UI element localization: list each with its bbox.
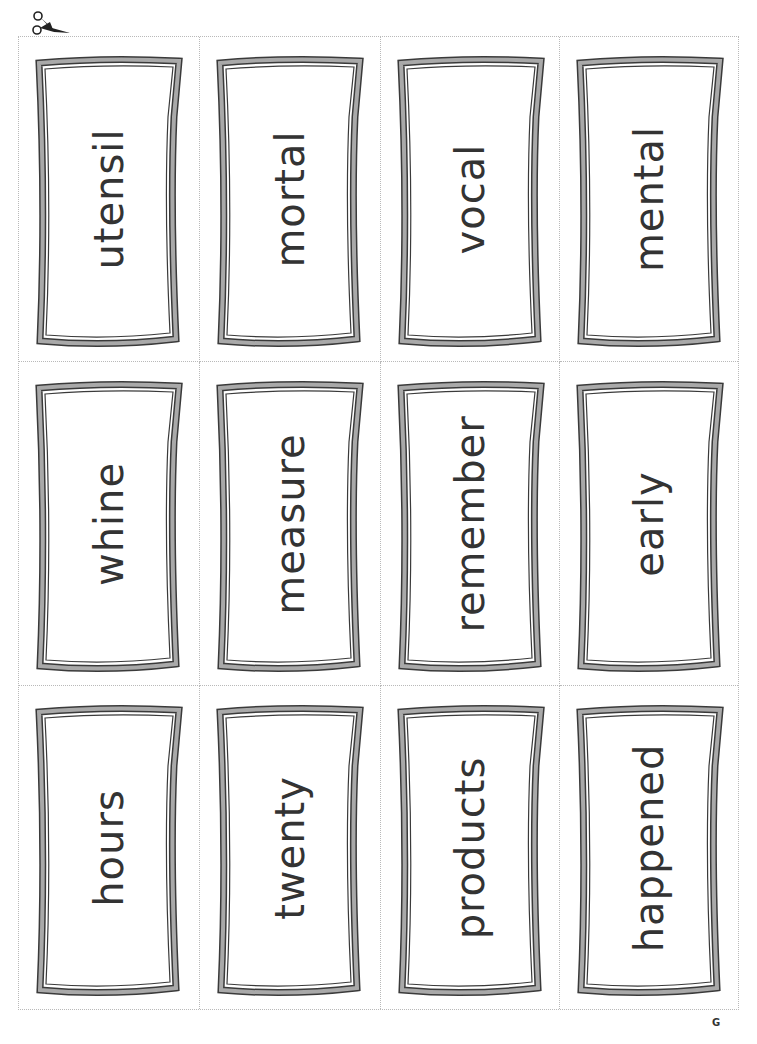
- card-word: twenty: [267, 776, 313, 920]
- word-card: mental: [560, 37, 738, 362]
- word-card: remember: [381, 362, 560, 686]
- word-card: happened: [560, 686, 738, 1009]
- page-letter: G: [712, 1017, 720, 1028]
- scissors-icon: [30, 10, 72, 38]
- word-card: measure: [200, 362, 381, 686]
- card-word: whine: [86, 461, 132, 585]
- card-word: utensil: [86, 128, 132, 269]
- card-word: mental: [626, 126, 672, 272]
- card-word: measure: [267, 433, 313, 614]
- card-word: hours: [86, 789, 132, 906]
- card-word: products: [447, 756, 493, 939]
- word-card: twenty: [200, 686, 381, 1009]
- word-card: mortal: [200, 37, 381, 362]
- word-card: whine: [19, 362, 200, 686]
- word-card: utensil: [19, 37, 200, 362]
- word-card: hours: [19, 686, 200, 1009]
- card-word: early: [626, 471, 672, 576]
- word-card: products: [381, 686, 560, 1009]
- card-word: vocal: [447, 144, 493, 255]
- card-word: happened: [626, 743, 672, 952]
- card-word: mortal: [267, 130, 313, 267]
- card-sheet: utensil mortal vocal: [18, 36, 739, 1010]
- word-card: early: [560, 362, 738, 686]
- card-word: remember: [447, 415, 493, 632]
- word-card: vocal: [381, 37, 560, 362]
